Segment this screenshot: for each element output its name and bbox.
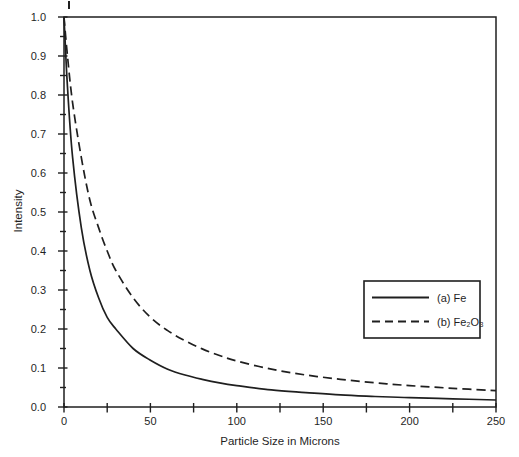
y-tick-label: 0.8 [4, 88, 46, 102]
y-tick-label: 0.6 [4, 166, 46, 180]
y-tick-label: 0.2 [4, 322, 46, 336]
curve-fe [64, 17, 496, 400]
axis-ticks [58, 17, 496, 413]
legend-box [364, 281, 480, 338]
x-tick-label: 0 [42, 414, 86, 428]
line-chart-figure: Intensity Particle Size in Microns (a) F… [0, 0, 519, 457]
y-tick-label: 0.7 [4, 127, 46, 141]
x-tick-label: 50 [128, 414, 172, 428]
y-tick-label: 0.0 [4, 400, 46, 414]
y-tick-label: 1.0 [4, 10, 46, 24]
chart-canvas [0, 0, 519, 457]
x-axis-title: Particle Size in Microns [220, 435, 340, 447]
x-tick-label: 200 [388, 414, 432, 428]
data-curves [64, 17, 496, 400]
y-tick-label: 0.9 [4, 49, 46, 63]
y-tick-label: 0.1 [4, 361, 46, 375]
legend-label-fe2o3: (b) Fe₂O₃ [437, 316, 484, 328]
x-tick-label: 150 [301, 414, 345, 428]
plot-frame [64, 17, 496, 407]
y-tick-label: 0.3 [4, 283, 46, 297]
legend-label-fe: (a) Fe [437, 292, 466, 304]
y-tick-label: 0.4 [4, 244, 46, 258]
x-tick-label: 100 [215, 414, 259, 428]
y-tick-label: 0.5 [4, 205, 46, 219]
x-tick-label: 250 [474, 414, 518, 428]
